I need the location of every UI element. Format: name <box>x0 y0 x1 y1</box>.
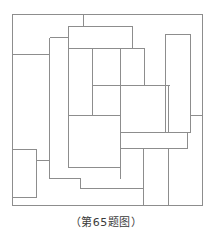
figure-caption: （第65题图） <box>0 213 212 229</box>
top-scan-artifact-text <box>0 0 212 10</box>
rect-outer-frame <box>13 15 203 206</box>
rect-left-small <box>13 150 37 198</box>
rect-upper-mid-tall <box>69 49 121 116</box>
shapes-layer <box>13 15 203 206</box>
rect-center-right-block <box>121 86 169 133</box>
figure-container: （第65题图） <box>0 0 212 235</box>
rect-right-tall <box>166 35 191 133</box>
rect-center-lower <box>69 116 121 168</box>
rect-top-center <box>69 27 133 49</box>
rectangle-dissection-diagram <box>0 10 212 210</box>
rect-right-wide-low <box>121 133 188 149</box>
rect-upper-right-wide <box>93 49 145 86</box>
